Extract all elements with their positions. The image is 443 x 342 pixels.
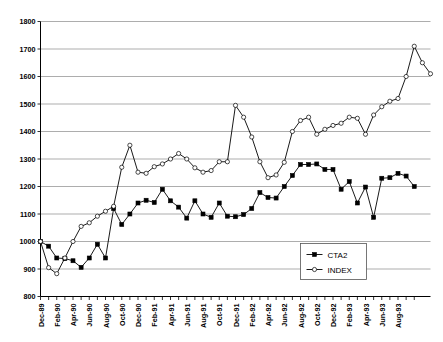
legend-label: INDEX <box>328 266 353 275</box>
series-line <box>41 46 431 273</box>
x-tick-label: Aug-90 <box>102 304 111 328</box>
y-tick-label: 1500 <box>20 100 36 109</box>
chart-legend: CTA2INDEX <box>301 244 367 280</box>
x-tick-label: Dec-89 <box>37 304 46 328</box>
data-point <box>258 160 262 164</box>
x-tick-label: Dec-91 <box>232 304 241 328</box>
data-point <box>112 204 116 208</box>
data-point <box>136 170 140 174</box>
data-point <box>144 198 148 202</box>
data-point <box>266 176 270 180</box>
data-point <box>282 185 286 189</box>
data-point <box>47 244 51 248</box>
data-point <box>331 167 335 171</box>
data-point <box>420 61 424 65</box>
data-point <box>372 215 376 219</box>
data-point <box>168 157 172 161</box>
data-point <box>152 200 156 204</box>
x-axis: Dec-89Feb-90Apr-90Jun-90Aug-90Oct-90Dec-… <box>37 297 431 328</box>
data-point <box>331 123 335 127</box>
line-chart: 8009001000110012001300140015001600170018… <box>0 0 443 342</box>
data-point <box>233 103 237 107</box>
x-tick-label: Feb-90 <box>53 304 62 327</box>
y-tick-label: 1000 <box>20 237 36 246</box>
data-point <box>315 162 319 166</box>
data-point <box>266 196 270 200</box>
x-tick-label: Jun-93 <box>378 304 387 327</box>
data-point <box>201 212 205 216</box>
data-point <box>128 143 132 147</box>
data-point <box>152 165 156 169</box>
data-point <box>185 216 189 220</box>
data-point <box>120 222 124 226</box>
data-point <box>217 160 221 164</box>
y-tick-label: 1300 <box>20 155 36 164</box>
x-tick-label: Aug-93 <box>394 304 403 328</box>
legend-label: CTA2 <box>328 251 348 260</box>
y-tick-label: 800 <box>24 292 36 301</box>
data-point <box>347 180 351 184</box>
data-point <box>298 118 302 122</box>
x-tick-label: Dec-90 <box>134 304 143 328</box>
data-point <box>404 74 408 78</box>
data-point <box>136 201 140 205</box>
data-point <box>388 176 392 180</box>
x-tick-label: Oct-90 <box>118 304 127 326</box>
x-tick-label: Dec-92 <box>329 304 338 328</box>
data-point <box>47 266 51 270</box>
data-point <box>290 174 294 178</box>
x-tick-label: Apr-90 <box>69 304 78 327</box>
legend-marker-filled-square <box>313 253 317 257</box>
x-tick-label: Oct-92 <box>313 304 322 326</box>
data-point <box>290 129 294 133</box>
data-point <box>347 115 351 119</box>
data-point <box>355 201 359 205</box>
data-point <box>412 185 416 189</box>
data-point <box>87 256 91 260</box>
y-tick-label: 1800 <box>20 17 36 26</box>
data-point <box>364 185 368 189</box>
data-point <box>209 215 213 219</box>
x-tick-label: Aug-91 <box>199 304 208 328</box>
data-point <box>79 265 83 269</box>
y-axis: 8009001000110012001300140015001600170018… <box>20 17 41 301</box>
data-point <box>323 167 327 171</box>
data-point <box>404 174 408 178</box>
data-point <box>38 239 42 243</box>
data-point <box>380 105 384 109</box>
x-tick-label: Aug-92 <box>297 304 306 328</box>
data-point <box>299 163 303 167</box>
y-tick-label: 1100 <box>20 210 36 219</box>
data-point <box>177 205 181 209</box>
data-point <box>169 199 173 203</box>
y-tick-label: 1200 <box>20 182 36 191</box>
data-point <box>412 44 416 48</box>
data-point <box>193 166 197 170</box>
data-point <box>209 168 213 172</box>
data-point <box>87 221 91 225</box>
data-point <box>315 132 319 136</box>
data-point <box>339 121 343 125</box>
x-tick-label: Apr-93 <box>362 304 371 327</box>
data-point <box>307 163 311 167</box>
data-point <box>355 116 359 120</box>
data-point <box>274 196 278 200</box>
data-point <box>242 213 246 217</box>
gridlines <box>41 22 431 270</box>
data-point <box>95 242 99 246</box>
data-point <box>282 160 286 164</box>
chart-container: 8009001000110012001300140015001600170018… <box>0 0 443 342</box>
data-point <box>193 199 197 203</box>
y-tick-label: 1700 <box>20 45 36 54</box>
x-tick-label: Jun-92 <box>280 304 289 327</box>
x-tick-label: Apr-92 <box>264 304 273 327</box>
data-point <box>234 215 238 219</box>
data-point <box>396 171 400 175</box>
data-point <box>71 239 75 243</box>
data-point <box>242 115 246 119</box>
data-point <box>217 201 221 205</box>
data-point <box>388 99 392 103</box>
data-point <box>95 214 99 218</box>
data-point <box>339 187 343 191</box>
x-tick-label: Apr-91 <box>167 304 176 327</box>
